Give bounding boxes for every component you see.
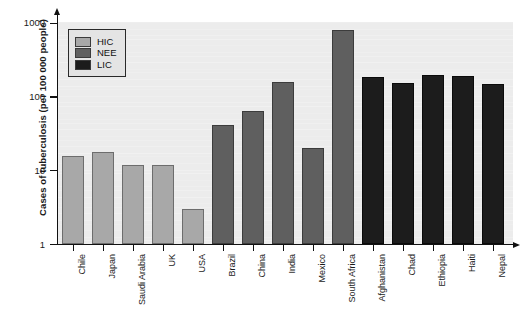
x-axis-tick — [133, 245, 134, 251]
y-axis-title: Cases of tuberculosis (per 100 000 peopl… — [37, 0, 48, 238]
x-axis-label-mexico: Mexico — [317, 254, 327, 283]
bar-china — [242, 111, 264, 245]
x-axis-tick — [433, 245, 434, 251]
bar-brazil — [212, 125, 234, 245]
y-axis-tick — [50, 96, 57, 97]
x-axis-tick — [253, 245, 254, 251]
chart-figure: Cases of tuberculosis (per 100 000 peopl… — [0, 0, 525, 312]
bar-haiti — [452, 76, 474, 244]
x-axis-label-afghanistan: Afghanistan — [377, 254, 387, 302]
y-axis-arrow-icon — [54, 8, 60, 15]
x-axis-tick — [493, 245, 494, 251]
y-axis-tick — [50, 244, 57, 245]
x-axis-label-brazil: Brazil — [227, 254, 237, 277]
y-axis-tick-label: 1 — [5, 239, 45, 250]
x-axis-tick — [373, 245, 374, 251]
legend-label-hic: HIC — [97, 37, 113, 47]
x-axis-tick — [73, 245, 74, 251]
bar-chile — [62, 156, 84, 245]
y-axis-tick-label: 1000 — [5, 17, 45, 28]
x-axis-label-uk: UK — [167, 254, 177, 267]
y-axis-tick-label: 10 — [5, 165, 45, 176]
background-band — [58, 52, 513, 53]
background-band — [58, 56, 513, 57]
legend-swatch-icon-nee — [75, 48, 91, 58]
background-band — [58, 39, 513, 40]
bar-south-africa — [332, 30, 354, 244]
legend-item-lic: LIC — [75, 60, 117, 70]
y-axis-line — [57, 14, 58, 245]
bar-mexico — [302, 148, 324, 244]
x-axis-label-japan: Japan — [107, 254, 117, 279]
x-axis-label-india: India — [287, 254, 297, 274]
x-axis-arrow-icon — [513, 242, 520, 248]
background-band — [58, 69, 513, 70]
bar-ethiopia — [422, 75, 444, 245]
background-band — [58, 62, 513, 63]
x-axis-tick — [403, 245, 404, 251]
background-band — [58, 35, 513, 36]
background-band — [58, 72, 513, 73]
bar-japan — [92, 152, 114, 245]
legend-item-nee: NEE — [75, 48, 117, 58]
x-axis-label-haiti: Haiti — [467, 254, 477, 272]
legend-item-hic: HIC — [75, 37, 117, 47]
x-axis-label-chad: Chad — [407, 254, 417, 276]
background-band — [58, 22, 513, 23]
legend-label-lic: LIC — [97, 60, 112, 70]
bar-nepal — [482, 84, 504, 245]
legend-swatch-icon-hic — [75, 37, 91, 47]
y-axis-tick — [50, 170, 57, 171]
bar-usa — [182, 209, 204, 244]
x-axis-tick — [223, 245, 224, 251]
x-axis-tick — [103, 245, 104, 251]
bar-afghanistan — [362, 77, 384, 244]
x-axis-tick — [343, 245, 344, 251]
y-axis-tick-label: 100 — [5, 91, 45, 102]
background-band — [58, 45, 513, 46]
background-band — [58, 79, 513, 80]
x-axis-label-nepal: Nepal — [497, 254, 507, 278]
x-axis-label-usa: USA — [197, 254, 207, 273]
background-band — [58, 29, 513, 30]
x-axis-label-chile: Chile — [77, 254, 87, 275]
x-axis-label-ethiopia: Ethiopia — [437, 254, 447, 287]
bar-chad — [392, 83, 414, 245]
bar-saudi-arabia — [122, 165, 144, 245]
bar-uk — [152, 165, 174, 245]
y-axis-tick — [50, 23, 57, 24]
bar-india — [272, 82, 294, 245]
legend: HICNEELIC — [68, 29, 126, 77]
x-axis-label-saudi-arabia: Saudi Arabia — [137, 254, 147, 305]
x-axis-tick — [193, 245, 194, 251]
x-axis-label-south-africa: South Africa — [347, 254, 357, 303]
legend-swatch-icon-lic — [75, 60, 91, 70]
x-axis-tick — [283, 245, 284, 251]
legend-label-nee: NEE — [97, 48, 117, 58]
x-axis-tick — [313, 245, 314, 251]
x-axis-tick — [463, 245, 464, 251]
x-axis-tick — [163, 245, 164, 251]
x-axis-label-china: China — [257, 254, 267, 278]
